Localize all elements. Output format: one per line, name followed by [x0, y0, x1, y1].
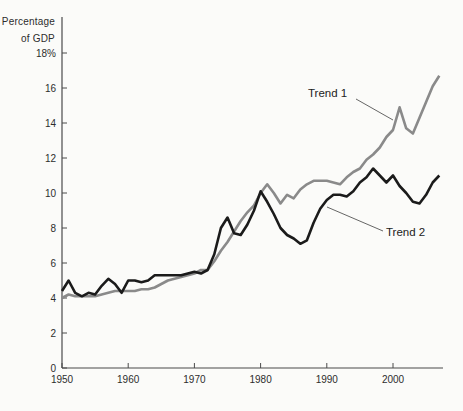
x-axis-tick-label: 1950	[51, 374, 74, 385]
y-axis-tick-label: 6	[50, 258, 56, 269]
y-axis-tick-label: 10	[45, 188, 57, 199]
trend1-series-label: Trend 1	[308, 87, 347, 99]
y-axis-tick-label: 12	[45, 153, 57, 164]
gdp-percentage-line-chart-figure: 024681012141618%195019601970198019902000…	[0, 0, 463, 411]
y-axis-unit-label: Percentage of GDP	[0, 13, 55, 47]
x-axis-tick-label: 1990	[316, 374, 339, 385]
trend1-line	[62, 76, 439, 298]
trend2-line	[62, 169, 439, 297]
x-axis-tick-label: 1970	[183, 374, 206, 385]
y-axis-tick-label: 18%	[36, 48, 56, 59]
x-axis-tick-label: 1960	[117, 374, 140, 385]
trend2-series-label: Trend 2	[386, 226, 425, 238]
line-chart-canvas: 024681012141618%195019601970198019902000	[0, 0, 463, 411]
y-axis-tick-label: 0	[50, 363, 56, 374]
x-axis-tick-label: 1980	[249, 374, 272, 385]
y-axis-tick-label: 16	[45, 83, 57, 94]
y-axis-tick-label: 4	[50, 293, 56, 304]
y-axis-tick-label: 14	[45, 118, 57, 129]
y-axis-tick-label: 2	[50, 328, 56, 339]
trend2-callout-line	[327, 207, 383, 231]
y-axis-unit-label-line2: of GDP	[0, 30, 55, 47]
y-axis-unit-label-line1: Percentage	[0, 13, 55, 30]
x-axis-tick-label: 2000	[382, 374, 405, 385]
trend1-callout-line	[356, 99, 393, 120]
y-axis-tick-label: 8	[50, 223, 56, 234]
